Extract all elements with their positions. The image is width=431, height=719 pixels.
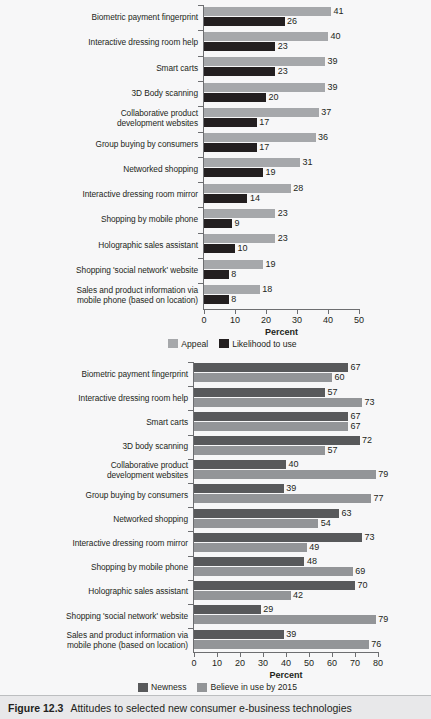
- bar-value-label: 39: [327, 83, 337, 92]
- bar-value-label: 23: [278, 67, 288, 76]
- category-label: Networked shopping: [8, 164, 198, 174]
- y-axis-tick: [188, 604, 193, 605]
- bar: [204, 108, 319, 117]
- bar: [194, 543, 307, 552]
- bar: [194, 640, 369, 649]
- y-axis-tick: [188, 628, 193, 629]
- bar: [204, 42, 275, 51]
- y-axis-tick: [188, 507, 193, 508]
- legend-item: Likelihood to use: [219, 339, 297, 349]
- category-label: Interactive dressing room help: [8, 393, 188, 403]
- bar: [204, 17, 285, 26]
- x-axis-tick-label: 50: [297, 658, 321, 668]
- y-axis-tick: [188, 459, 193, 460]
- y-axis-tick: [198, 106, 203, 107]
- bar: [194, 494, 371, 503]
- x-axis-tick: [297, 310, 298, 314]
- bar-value-label: 29: [263, 605, 273, 614]
- bar-value-label: 70: [358, 581, 368, 590]
- category-label: 3D Body scanning: [8, 88, 198, 98]
- bar: [194, 422, 348, 431]
- bar-value-label: 57: [328, 388, 338, 397]
- category-label: Biometric payment fingerprint: [8, 369, 188, 379]
- bar: [204, 118, 257, 127]
- bar-value-label: 40: [331, 32, 341, 41]
- x-axis-tick-label: 80: [366, 658, 390, 668]
- x-axis-tick: [286, 653, 287, 657]
- x-axis-tick: [240, 653, 241, 657]
- category-label: Biometric payment fingerprint: [8, 12, 198, 22]
- bar-value-label: 73: [364, 533, 374, 542]
- bar-value-label: 31: [303, 158, 313, 167]
- bar-value-label: 37: [321, 108, 331, 117]
- bar-value-label: 8: [231, 295, 236, 304]
- y-axis-tick: [188, 386, 193, 387]
- bar: [194, 630, 284, 639]
- x-axis-tick-label: 0: [182, 658, 206, 668]
- bar-value-label: 39: [286, 484, 296, 493]
- bar-value-label: 54: [321, 519, 331, 528]
- bar-value-label: 10: [238, 244, 248, 253]
- bar-value-label: 42: [293, 591, 303, 600]
- bar: [204, 158, 300, 167]
- y-axis-tick: [198, 182, 203, 183]
- x-axis-tick: [378, 653, 379, 657]
- y-axis-tick: [188, 531, 193, 532]
- bar: [194, 412, 348, 421]
- y-axis-tick: [198, 207, 203, 208]
- category-label: Shopping by mobile phone: [8, 562, 188, 572]
- bar-value-label: 40: [289, 460, 299, 469]
- bar: [204, 184, 291, 193]
- bar-value-label: 60: [335, 373, 345, 382]
- y-axis-tick: [198, 56, 203, 57]
- bar: [194, 509, 339, 518]
- bar-value-label: 79: [378, 615, 388, 624]
- bar-value-label: 17: [259, 118, 269, 127]
- category-label: Holographic sales assistant: [8, 240, 198, 250]
- legend-label: Newness: [151, 682, 186, 692]
- bar-value-label: 48: [307, 557, 317, 566]
- bar-value-label: 63: [341, 509, 351, 518]
- category-label: Collaborative product development websit…: [8, 108, 198, 128]
- category-label: Group buying by consumers: [8, 490, 188, 500]
- y-axis-tick: [198, 157, 203, 158]
- bar: [204, 83, 325, 92]
- x-axis-tick: [266, 310, 267, 314]
- bar-value-label: 19: [265, 260, 275, 269]
- bar-value-label: 23: [278, 42, 288, 51]
- legend-swatch: [138, 683, 148, 692]
- y-axis-tick: [188, 580, 193, 581]
- y-axis-tick: [198, 258, 203, 259]
- bar: [204, 285, 260, 294]
- bar: [194, 470, 376, 479]
- x-axis-tick: [309, 653, 310, 657]
- bar-value-label: 67: [351, 422, 361, 431]
- bar: [194, 605, 261, 614]
- category-label: Sales and product information via mobile…: [8, 285, 198, 305]
- bar-value-label: 9: [234, 219, 239, 228]
- x-axis-tick: [217, 653, 218, 657]
- bar: [194, 581, 355, 590]
- x-axis-tick: [359, 310, 360, 314]
- chart-newness-belief: Biometric payment fingerprint6760Interac…: [0, 358, 431, 695]
- x-axis-tick-label: 20: [254, 315, 278, 325]
- y-axis-tick: [188, 435, 193, 436]
- bar: [194, 446, 325, 455]
- bar: [204, 57, 325, 66]
- bar: [194, 373, 332, 382]
- bar-value-label: 23: [278, 209, 288, 218]
- bar-value-label: 72: [362, 436, 372, 445]
- bar-value-label: 79: [378, 470, 388, 479]
- bar: [194, 533, 362, 542]
- y-axis-tick: [198, 283, 203, 284]
- category-label: Interactive dressing room help: [8, 37, 198, 47]
- bar-value-label: 77: [374, 494, 384, 503]
- x-axis-tick: [194, 653, 195, 657]
- chart-legend: AppealLikelihood to use: [0, 339, 431, 349]
- bar-value-label: 14: [250, 194, 260, 203]
- y-axis-tick: [198, 81, 203, 82]
- y-axis-tick: [188, 483, 193, 484]
- bar: [204, 209, 275, 218]
- category-label: Shopping 'social network' website: [8, 611, 188, 621]
- x-axis-tick-label: 20: [228, 658, 252, 668]
